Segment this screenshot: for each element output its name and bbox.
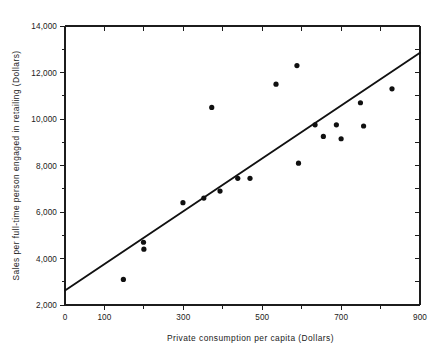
data-point (141, 247, 146, 252)
data-point (296, 161, 301, 166)
data-point (141, 240, 146, 245)
y-tick-label: 14,000 (31, 22, 57, 31)
x-tick-label: 0 (63, 313, 68, 322)
data-point (389, 86, 394, 91)
data-point (180, 200, 185, 205)
figure-caption-fragment (26, 345, 216, 354)
data-point (201, 195, 206, 200)
axes (60, 26, 420, 310)
y-tick-label: 4,000 (36, 255, 57, 264)
x-tick-label: 500 (255, 313, 269, 322)
data-point (247, 176, 252, 181)
x-tick-label: 100 (97, 313, 111, 322)
regression-line (65, 53, 420, 291)
data-point (312, 122, 317, 127)
x-axis-title: Private consumption per capita (Dollars) (167, 333, 334, 343)
tick-labels: 2,0004,0006,0008,00010,00012,00014,00001… (31, 22, 427, 322)
data-point (121, 277, 126, 282)
data-point (321, 134, 326, 139)
data-point (334, 122, 339, 127)
data-point (294, 63, 299, 68)
data-point (273, 82, 278, 87)
data-point (217, 188, 222, 193)
x-tick-label: 300 (176, 313, 190, 322)
y-axis-title: Sales per full-time person engaged in re… (11, 50, 21, 280)
x-tick-label: 900 (413, 313, 427, 322)
x-tick-label: 700 (334, 313, 348, 322)
regression-line-path (65, 53, 420, 291)
y-tick-label: 10,000 (31, 115, 57, 124)
data-point (358, 100, 363, 105)
y-tick-label: 12,000 (31, 69, 57, 78)
axis-titles: Private consumption per capita (Dollars)… (11, 50, 334, 343)
data-points (121, 63, 395, 282)
data-point (339, 136, 344, 141)
data-point (235, 176, 240, 181)
y-tick-label: 2,000 (36, 301, 57, 310)
y-tick-label: 6,000 (36, 208, 57, 217)
chart-canvas: 2,0004,0006,0008,00010,00012,00014,00001… (0, 0, 444, 357)
data-point (361, 123, 366, 128)
scatter-plot-figure: 2,0004,0006,0008,00010,00012,00014,00001… (0, 0, 444, 357)
data-point (209, 105, 214, 110)
y-tick-label: 8,000 (36, 162, 57, 171)
